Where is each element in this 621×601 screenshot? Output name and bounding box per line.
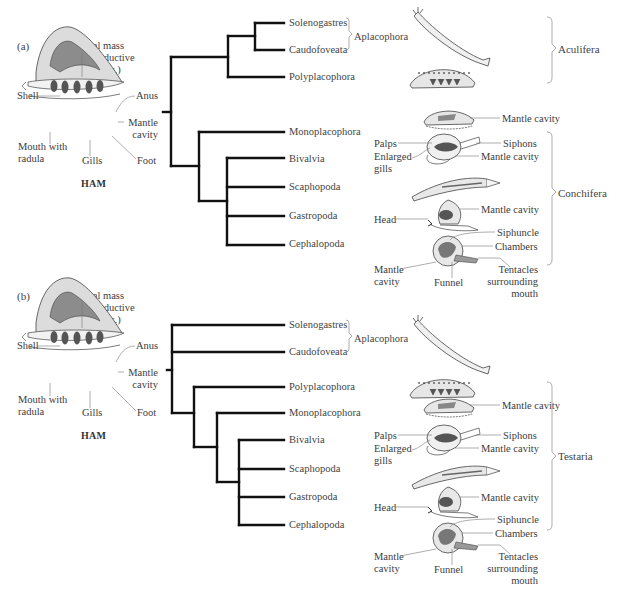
- chiton-icon: [410, 380, 475, 398]
- aplacophoran-icon: [413, 315, 490, 374]
- aplacophora-bracket: [346, 320, 352, 352]
- cephalopod-icon: [433, 523, 478, 553]
- chiton-icon: [410, 70, 475, 88]
- gastropod-icon: [428, 487, 478, 518]
- cephalopod-icon: [433, 236, 478, 266]
- bivalve-icon: [427, 425, 480, 455]
- diagram-graphics: [0, 0, 621, 601]
- gastropod-icon: [428, 200, 478, 231]
- aplacophora-bracket: [346, 18, 352, 50]
- ham-illustration: [22, 27, 124, 99]
- aculifera-bracket: [547, 17, 556, 83]
- aplacophoran-icon: [413, 7, 490, 66]
- scaphopod-icon: [412, 466, 500, 489]
- testaria-bracket: [547, 382, 556, 530]
- monoplacophoran-icon: [424, 111, 474, 129]
- conchifera-bracket: [547, 132, 556, 265]
- ham-illustration: [22, 278, 124, 350]
- monoplacophoran-icon: [424, 399, 474, 417]
- bivalve-icon: [427, 134, 480, 164]
- phylogeny-tree-b: [167, 325, 284, 525]
- phylogeny-tree-a: [163, 23, 284, 245]
- scaphopod-icon: [412, 178, 500, 201]
